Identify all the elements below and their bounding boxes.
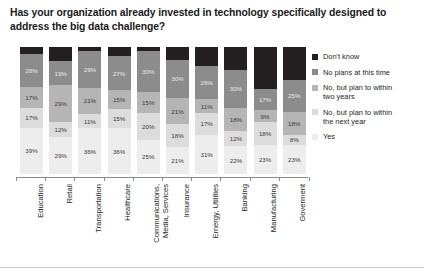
bar-column[interactable]: 30%15%20%25% (137, 47, 160, 174)
legend-swatch-icon (312, 85, 318, 91)
bar-segment: 9% (254, 110, 277, 121)
axis-tick (133, 177, 134, 181)
axis-tick (220, 177, 221, 181)
bar-segment-value: 21% (171, 157, 183, 164)
bar-column[interactable]: 30%18%12%22% (224, 47, 247, 174)
bar-segment: 15% (108, 90, 131, 109)
bar-segment: 18% (166, 124, 189, 147)
bar-segment-value: 15% (142, 99, 154, 106)
bar-column[interactable]: 29%21%11%36% (78, 47, 101, 174)
bar-segment: 29% (49, 137, 72, 174)
bar-segment: 23% (254, 145, 277, 174)
bar-segment: 25% (137, 140, 160, 174)
bar-segment: 17% (20, 87, 43, 107)
bar-segment: 39% (20, 128, 43, 174)
bar-segment-value: 29% (54, 152, 66, 159)
legend-swatch-icon (312, 134, 318, 140)
bar-segment: 26% (195, 66, 218, 99)
x-axis-category-label: Insurance (183, 184, 192, 271)
legend-item-label: No, but plan to within two years (323, 83, 392, 101)
bar-segment-value: 18% (230, 116, 242, 123)
bar-segment: 30% (166, 60, 189, 98)
axis-tick (250, 177, 251, 181)
legend-item[interactable]: No plans at this time (312, 68, 422, 77)
bar-segment-value: 21% (84, 97, 96, 104)
bar-segment-value: 31% (200, 151, 212, 158)
bar-column[interactable]: 28%17%17%39% (20, 47, 43, 174)
bar-segment-value: 26% (200, 79, 212, 86)
bar-segment (195, 47, 218, 66)
bar-segment-value: 17% (25, 94, 37, 101)
bar-segment-value: 17% (200, 120, 212, 127)
bar-segment (254, 47, 277, 89)
bar-segment: 20% (137, 113, 160, 140)
bar-segment (49, 47, 72, 61)
legend-swatch-icon (312, 109, 318, 115)
bar-segment-value: 17% (25, 114, 37, 121)
bar-segment: 25% (283, 80, 306, 112)
bar-segment: 15% (108, 109, 131, 128)
legend-item[interactable]: Don't know (312, 52, 422, 61)
bar-segment-value: 25% (142, 153, 154, 160)
legend-item[interactable]: No, but plan to within two years (312, 83, 422, 101)
bar-segment: 22% (224, 146, 247, 174)
plot-area: 28%17%17%39%19%29%12%29%29%21%11%36%27%1… (16, 47, 306, 174)
bar-column[interactable]: 25%18%8%23% (283, 47, 306, 174)
x-axis-category-label: Retail (66, 184, 75, 271)
x-axis-category-label: Goverment (299, 184, 308, 271)
bar-segment-value: 30% (230, 85, 242, 92)
bar-segment: 15% (137, 92, 160, 112)
bar-column[interactable]: 27%15%15%36% (108, 47, 131, 174)
legend-swatch-icon (312, 69, 318, 75)
bar-segment: 29% (49, 85, 72, 122)
bar-segment: 12% (49, 122, 72, 137)
bar-segment: 36% (78, 128, 101, 174)
bar-segment (166, 47, 189, 60)
chart-legend: Don't knowNo plans at this timeNo, but p… (312, 52, 422, 148)
bar-segment-value: 27% (113, 70, 125, 77)
bar-column[interactable]: 26%11%17%31% (195, 47, 218, 174)
bar-segment: 36% (108, 128, 131, 174)
axis-tick (191, 177, 192, 181)
x-axis-category-label: Education (37, 184, 46, 271)
bar-segment: 17% (195, 113, 218, 135)
axis-tick (104, 177, 105, 181)
bar-segment: 31% (195, 135, 218, 174)
bar-segment-value: 20% (142, 123, 154, 130)
bar-segment-value: 22% (230, 157, 242, 164)
bar-column[interactable]: 19%29%12%29% (49, 47, 72, 174)
bar-segment-value: 12% (230, 135, 242, 142)
bar-segment-value: 8% (290, 136, 299, 143)
chart-title: Has your organization already invested i… (10, 6, 408, 33)
legend-item[interactable]: No, but plan to within the next year (312, 108, 422, 126)
bar-segment (283, 47, 306, 80)
chart-container: Has your organization already invested i… (0, 0, 424, 271)
axis-tick (162, 177, 163, 181)
axis-tick (74, 177, 75, 181)
x-axis-category-label: Transportation (95, 184, 104, 271)
bar-segment-value: 30% (171, 75, 183, 82)
bar-segment (224, 47, 247, 70)
bar-segment: 18% (224, 108, 247, 131)
bar-segment-value: 15% (113, 96, 125, 103)
bar-segment: 18% (254, 122, 277, 145)
bar-segment: 21% (78, 88, 101, 115)
bar-segment-value: 21% (171, 108, 183, 115)
bar-segment: 17% (20, 108, 43, 128)
bar-segment: 11% (195, 99, 218, 113)
bar-segment-value: 19% (54, 70, 66, 77)
x-axis-category-label: Emergy, Utilities (212, 184, 221, 271)
bar-column[interactable]: 17%9%18%23% (254, 47, 277, 174)
bar-segment-value: 9% (261, 113, 270, 120)
bar-segment-value: 28% (25, 67, 37, 74)
legend-item[interactable]: Yes (312, 132, 422, 141)
bar-segment-value: 18% (171, 132, 183, 139)
bar-column[interactable]: 30%21%18%21% (166, 47, 189, 174)
bar-segment-value: 11% (201, 103, 213, 110)
bar-segment: 28% (20, 54, 43, 87)
bar-segment-value: 23% (288, 156, 300, 163)
bar-segment: 8% (283, 135, 306, 145)
bar-segment: 18% (283, 112, 306, 135)
bar-segment: 30% (224, 70, 247, 108)
bar-segment: 21% (166, 98, 189, 125)
